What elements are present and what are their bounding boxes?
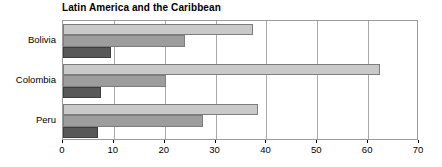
tick-mark [418,140,419,143]
tick-label: 30 [209,144,220,155]
tick-label: 60 [362,144,373,155]
tick-label: 40 [260,144,271,155]
tick-mark [164,140,165,143]
value-axis: 010203040506070 [0,140,442,167]
tick-mark [62,140,63,143]
tick-label: 70 [413,144,424,155]
category-label-bolivia: Bolivia [0,34,56,45]
tick-mark [215,140,216,143]
tick-mark [316,140,317,143]
tick-label: 20 [158,144,169,155]
chart-title: Latin America and the Caribbean [62,2,221,13]
category-axis-labels: BoliviaColombiaPeru [0,20,442,140]
tick-label: 10 [108,144,119,155]
bar-chart: Latin America and the Caribbean BoliviaC… [0,0,442,167]
category-label-colombia: Colombia [0,74,56,85]
tick-label: 50 [311,144,322,155]
tick-mark [367,140,368,143]
tick-mark [265,140,266,143]
tick-label: 0 [59,144,64,155]
tick-mark [113,140,114,143]
category-label-peru: Peru [0,114,56,125]
